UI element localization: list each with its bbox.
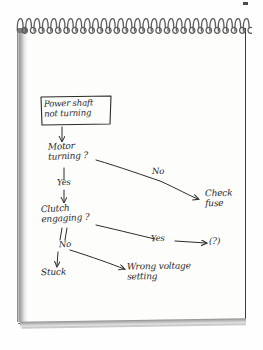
edge-label-clutch-no: No: [59, 240, 72, 250]
node-clutch-engaging: Clutch engaging ?: [41, 202, 90, 225]
notepad-spine-edge: [17, 30, 27, 322]
edge-label-motor-no: No: [152, 167, 164, 177]
spiral-binding-icon: [16, 6, 252, 42]
edge-label-motor-yes: Yes: [57, 178, 71, 188]
node-stuck: Stuck: [41, 267, 66, 278]
node-wrong-voltage-setting: Wrong voltage setting: [127, 260, 191, 281]
node-motor-turning: Motor turning ?: [48, 140, 89, 162]
notepad-screenshot: Power shaft not turning Check fuse --> d…: [0, 0, 263, 350]
node-check-fuse: Check fuse: [205, 188, 233, 209]
node-question-mark: (?): [209, 236, 220, 246]
corner-smudge-mark: [243, 2, 248, 5]
edge-label-clutch-yes: Yes: [151, 234, 165, 244]
problem-box-text: Power shaft not turning: [44, 98, 94, 119]
